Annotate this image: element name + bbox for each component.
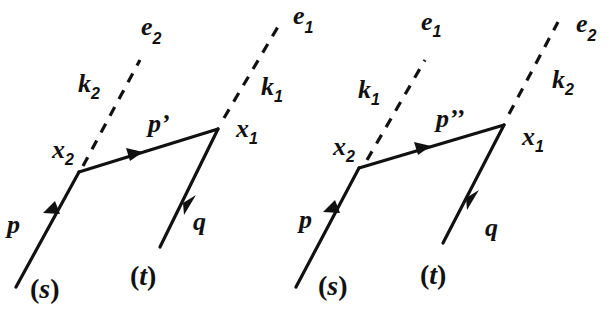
- incoming-fermion-line: [16, 172, 79, 287]
- label-photon-a-pol-sub: 1: [433, 23, 442, 40]
- label-photon-b-pol-sub: 1: [305, 19, 314, 36]
- diagram-right: p p’’ q x2 x1 k1 e1 k2 e2 (s) (t): [296, 7, 597, 301]
- label-photon-a: k: [358, 75, 371, 104]
- label-vertex-b: x: [235, 114, 249, 143]
- label-vertex-a: x: [332, 132, 346, 161]
- label-photon-a-pol: e: [421, 7, 433, 36]
- label-photon-b-sub: 2: [564, 81, 574, 98]
- label-vertex-b-sub: 1: [535, 138, 544, 155]
- label-incoming: p: [5, 210, 20, 239]
- label-photon-b-sub: 1: [274, 88, 283, 105]
- label-vertex-a-sub: 2: [345, 148, 355, 165]
- diagram-left: p p’ q x2 x1 k2 e2 k1 e1 (s) (t): [5, 1, 314, 304]
- label-photon-a-sub: 2: [90, 85, 100, 102]
- svg-text:(s): (s): [318, 270, 348, 301]
- label-internal: p’’: [434, 104, 464, 133]
- svg-text:x1: x1: [235, 114, 258, 147]
- label-state-in: s: [326, 270, 338, 301]
- label-photon-a-pol-sub: 2: [152, 30, 162, 47]
- svg-text:p’: p’: [146, 109, 170, 138]
- svg-text:k2: k2: [552, 65, 574, 98]
- svg-text:q: q: [485, 213, 498, 242]
- label-vertex-b-sub: 1: [249, 130, 258, 147]
- arrow-icon: [43, 201, 60, 214]
- label-vertex-a: x: [51, 135, 65, 164]
- svg-text:k2: k2: [78, 69, 100, 102]
- label-outgoing: q: [193, 207, 206, 236]
- label-photon-a-pol: e: [141, 12, 153, 41]
- svg-text:(t): (t): [130, 260, 156, 291]
- arrow-icon: [323, 200, 340, 213]
- internal-fermion-line: [359, 125, 504, 168]
- label-photon-a-sub: 1: [371, 91, 380, 108]
- label-vertex-a-sub: 2: [64, 151, 74, 168]
- outgoing-fermion-line: [160, 129, 218, 247]
- svg-text:(s): (s): [30, 273, 60, 304]
- label-photon-b-pol: e: [576, 9, 588, 38]
- svg-text:k1: k1: [261, 72, 283, 105]
- label-photon-b-pol: e: [293, 1, 305, 30]
- label-vertex-b: x: [521, 122, 535, 151]
- svg-text:p: p: [297, 205, 312, 234]
- svg-text:x1: x1: [521, 122, 544, 155]
- label-photon-b: k: [552, 65, 565, 94]
- svg-text:e1: e1: [421, 7, 442, 40]
- svg-text:p: p: [5, 210, 20, 239]
- svg-text:x2: x2: [51, 135, 74, 168]
- svg-text:e2: e2: [141, 12, 162, 47]
- label-photon-b-pol-sub: 2: [587, 27, 597, 44]
- svg-text:e1: e1: [293, 1, 314, 36]
- svg-text:q: q: [193, 207, 206, 236]
- svg-text:x2: x2: [332, 132, 355, 165]
- label-outgoing: q: [485, 213, 498, 242]
- photon-line-b: [509, 22, 558, 114]
- label-state-out: t: [429, 259, 438, 290]
- label-state-out: t: [139, 260, 148, 291]
- svg-text:e2: e2: [576, 9, 597, 44]
- svg-text:k1: k1: [358, 75, 380, 108]
- label-internal: p’: [146, 109, 170, 138]
- label-photon-a: k: [78, 69, 91, 98]
- label-state-in: s: [38, 273, 50, 304]
- svg-text:p’’: p’’: [434, 104, 464, 133]
- label-photon-b: k: [261, 72, 274, 101]
- svg-text:(t): (t): [420, 259, 446, 290]
- feynman-diagrams: p p’ q x2 x1 k2 e2 k1 e1 (s) (t) p p’’ q…: [0, 0, 609, 324]
- label-incoming: p: [297, 205, 312, 234]
